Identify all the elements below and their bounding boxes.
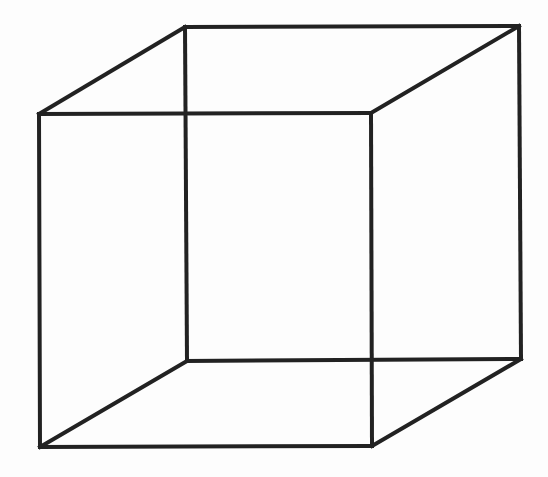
cube-edge-front-top-right-to-back-top-right xyxy=(371,26,519,113)
cube-edge-front-bottom-right-to-back-bottom-right xyxy=(372,359,521,446)
cube-edge-front-bottom-right-to-front-bottom-left xyxy=(40,446,372,447)
cube-edge-back-top-left-to-back-top-right xyxy=(185,26,519,27)
cube-edge-back-bottom-right-to-back-bottom-left xyxy=(187,359,521,361)
cube-edges xyxy=(39,26,521,447)
necker-cube xyxy=(0,0,548,477)
cube-edge-front-top-left-to-front-top-right xyxy=(39,113,371,114)
cube-edge-front-top-right-to-front-bottom-right xyxy=(371,113,372,446)
cube-edge-back-bottom-left-to-back-top-left xyxy=(185,27,187,361)
cube-edge-back-top-right-to-back-bottom-right xyxy=(519,26,521,359)
cube-edge-front-bottom-left-to-back-bottom-left xyxy=(40,361,187,447)
cube-edge-front-top-left-to-back-top-left xyxy=(39,27,185,114)
cube-edge-front-bottom-left-to-front-top-left xyxy=(39,114,40,447)
diagram-canvas xyxy=(0,0,548,477)
